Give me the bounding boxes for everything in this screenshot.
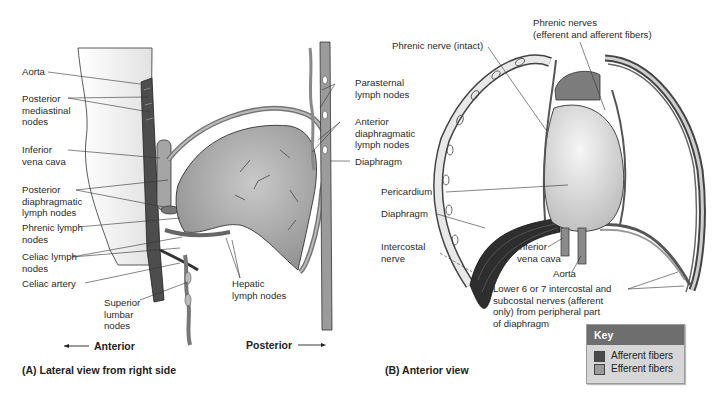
efferent-swatch-icon (594, 364, 605, 375)
label-celiac-artery: Celiac artery (22, 278, 76, 290)
legend-item-afferent: Afferent fibers (587, 349, 684, 362)
label-posterior-diaphragmatic-lymph-nodes: Posterior diaphragmatic lymph nodes (22, 184, 82, 219)
legend-label-afferent: Afferent fibers (611, 350, 673, 361)
direction-anterior: Anterior (94, 340, 135, 352)
label-inferior-vena-cava: Inferior vena cava (22, 144, 66, 167)
label-posterior-mediastinal-nodes: Posterior mediastinal nodes (22, 93, 71, 128)
label-superior-lumbar-nodes: Superior lumbar nodes (104, 297, 140, 332)
legend-title: Key (587, 325, 684, 345)
direction-posterior: Posterior (246, 339, 292, 351)
label-diaphragm-a: Diaphragm (355, 156, 402, 168)
label-phrenic-nerve-intact: Phrenic nerve (intact) (392, 40, 483, 52)
label-phrenic-nerves: Phrenic nerves (efferent and afferent fi… (533, 17, 652, 40)
legend-key: Key Afferent fibers Efferent fibers (586, 324, 685, 384)
label-intercostal-nerve: Intercostal nerve (381, 241, 425, 264)
label-aorta: Aorta (22, 66, 45, 78)
legend-label-efferent: Efferent fibers (611, 363, 673, 374)
label-aorta-b: Aorta (553, 268, 576, 280)
label-parasternal-lymph-nodes: Parasternal lymph nodes (355, 77, 409, 100)
lateral-view-art (48, 42, 350, 348)
label-hepatic-lymph-nodes: Hepatic lymph nodes (232, 278, 286, 301)
afferent-swatch-icon (594, 351, 605, 362)
caption-panel-b: (B) Anterior view (385, 364, 469, 376)
label-lower-intercostal-nerves: Lower 6 or 7 intercostal and subcostal n… (493, 283, 611, 329)
label-celiac-lymph-nodes: Celiac lymph nodes (22, 251, 77, 274)
legend-item-efferent: Efferent fibers (587, 362, 684, 375)
label-pericardium: Pericardium (381, 186, 432, 198)
label-phrenic-lymph-nodes: Phrenic lymph nodes (22, 222, 83, 245)
caption-panel-a: (A) Lateral view from right side (22, 364, 176, 376)
label-anterior-diaphragmatic-lymph-nodes: Anterior diaphragmatic lymph nodes (355, 116, 415, 151)
label-inferior-vena-cava-b: Inferior vena cava (517, 241, 561, 264)
label-diaphragm-b: Diaphragm (381, 208, 428, 220)
